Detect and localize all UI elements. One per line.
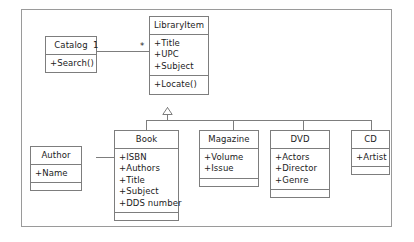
class-member: +Authors: [119, 163, 176, 175]
class-box-cd[interactable]: CD +Artist: [351, 130, 390, 175]
multiplicity-libraryitem-side: *: [140, 42, 144, 51]
class-box-author[interactable]: Author +Name: [30, 146, 82, 191]
class-member: +Title: [154, 38, 206, 50]
class-member: +Issue: [204, 163, 256, 175]
class-name-catalog: Catalog: [46, 37, 96, 55]
class-member: +Search(): [50, 58, 94, 70]
class-name-author: Author: [31, 147, 81, 165]
class-member: +Subject: [154, 61, 206, 73]
class-box-book[interactable]: Book +ISBN +Authors +Title +Subject +DDS…: [114, 130, 179, 221]
class-attributes-magazine: +Volume +Issue: [200, 149, 258, 179]
class-box-libraryitem[interactable]: LibraryItem +Title +UPC +Subject +Locate…: [149, 16, 209, 95]
class-member: +Name: [35, 168, 79, 180]
generalization-triangle-icon: [162, 100, 173, 108]
association-line-author-book-seg1: [96, 157, 115, 158]
class-name-cd: CD: [352, 131, 389, 149]
class-operations-cd: [352, 167, 389, 174]
class-operations-book: [115, 213, 178, 220]
class-box-catalog[interactable]: Catalog +Search(): [45, 36, 97, 73]
class-member: +Artist: [356, 152, 387, 164]
class-operations-catalog: +Search(): [46, 55, 96, 73]
multiplicity-catalog-side: 1: [93, 41, 98, 50]
class-attributes-cd: +Artist: [352, 149, 389, 168]
class-member: +ISBN: [119, 152, 176, 164]
class-attributes-libraryitem: +Title +UPC +Subject: [150, 35, 208, 77]
class-name-dvd: DVD: [271, 131, 329, 149]
class-member: +Director: [275, 163, 327, 175]
class-box-dvd[interactable]: DVD +Actors +Director +Genre: [270, 130, 330, 198]
class-operations-libraryitem: +Locate(): [150, 76, 208, 94]
class-attributes-book: +ISBN +Authors +Title +Subject +DDS numb…: [115, 149, 178, 214]
diagram-canvas: 1 * Catalog +Search() LibraryItem +Title…: [0, 0, 414, 242]
class-box-magazine[interactable]: Magazine +Volume +Issue: [199, 130, 259, 187]
class-member: +DDS number: [119, 198, 176, 210]
class-member: +Title: [119, 175, 176, 187]
association-line-catalog-libraryitem: [88, 51, 150, 52]
class-member: +Volume: [204, 152, 256, 164]
class-member: +Subject: [119, 186, 176, 198]
class-name-magazine: Magazine: [200, 131, 258, 149]
class-operations-author: [31, 183, 81, 190]
class-member: +Actors: [275, 152, 327, 164]
class-member: +UPC: [154, 49, 206, 61]
class-attributes-author: +Name: [31, 165, 81, 184]
generalization-bus: [146, 120, 371, 121]
class-operations-magazine: [200, 179, 258, 186]
class-name-libraryitem: LibraryItem: [150, 17, 208, 35]
class-name-book: Book: [115, 131, 178, 149]
class-operations-dvd: [271, 190, 329, 197]
class-member: +Locate(): [154, 79, 206, 91]
class-attributes-dvd: +Actors +Director +Genre: [271, 149, 329, 191]
class-member: +Genre: [275, 175, 327, 187]
